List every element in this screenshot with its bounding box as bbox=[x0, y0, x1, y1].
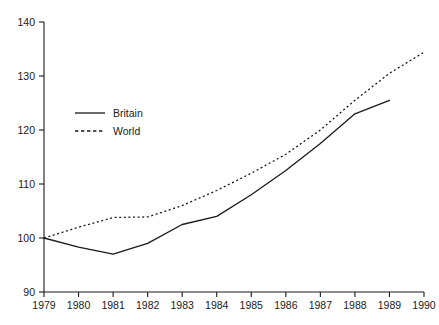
x-tick-label: 1979 bbox=[32, 299, 56, 311]
x-tick-label: 1989 bbox=[378, 299, 402, 311]
x-tick-label: 1984 bbox=[205, 299, 229, 311]
y-tick-label: 140 bbox=[17, 16, 35, 28]
x-axis: 1979198019811982198319841985198619871988… bbox=[32, 292, 436, 311]
x-tick-label: 1981 bbox=[101, 299, 125, 311]
y-tick-label: 130 bbox=[17, 70, 35, 82]
x-tick-label: 1982 bbox=[136, 299, 160, 311]
legend-label-world: World bbox=[113, 125, 140, 137]
legend-label-britain: Britain bbox=[113, 107, 143, 119]
x-tick-label: 1983 bbox=[171, 299, 195, 311]
y-tick-label: 120 bbox=[17, 124, 35, 136]
x-tick-label: 1988 bbox=[343, 299, 367, 311]
x-tick-label: 1990 bbox=[412, 299, 436, 311]
y-axis: 90100110120130140 bbox=[17, 16, 44, 298]
y-tick-label: 110 bbox=[18, 178, 35, 190]
y-tick-label: 90 bbox=[23, 286, 35, 298]
line-chart-figure: 90100110120130140 1979198019811982198319… bbox=[0, 0, 439, 325]
chart-legend: BritainWorld bbox=[75, 107, 143, 137]
y-tick-label: 100 bbox=[17, 232, 35, 244]
x-tick-label: 1985 bbox=[240, 299, 264, 311]
x-tick-label: 1980 bbox=[67, 299, 91, 311]
series-line-world bbox=[44, 52, 424, 238]
x-tick-label: 1986 bbox=[274, 299, 298, 311]
chart-canvas: 90100110120130140 1979198019811982198319… bbox=[0, 0, 439, 325]
data-series-group bbox=[44, 52, 424, 254]
x-tick-label: 1987 bbox=[309, 299, 333, 311]
series-line-britain bbox=[44, 100, 389, 254]
